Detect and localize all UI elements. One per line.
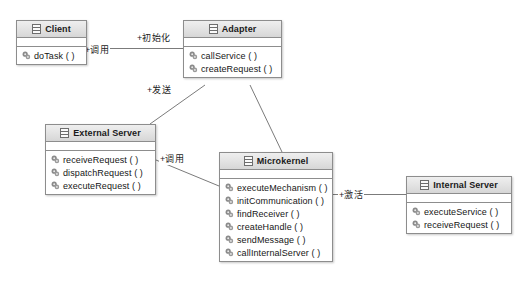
operation-label: executeService ( )	[424, 207, 498, 217]
class-icon	[420, 180, 429, 190]
operation-icon	[225, 209, 234, 218]
operation-label: receiveRequest ( )	[424, 220, 499, 230]
operation-row[interactable]: initCommunication ( )	[220, 194, 332, 207]
class-operations-client: doTask ( )	[17, 47, 86, 64]
operation-icon	[225, 248, 234, 257]
uml-class-diagram: +初始化 +调用 +发送 +调用 +激活 Client doTask ( )	[0, 0, 526, 283]
operation-row[interactable]: executeRequest ( )	[46, 179, 155, 192]
operation-row[interactable]: executeMechanism ( )	[220, 181, 332, 194]
operation-row[interactable]: findReceiver ( )	[220, 207, 332, 220]
operation-row[interactable]: receiveRequest ( )	[46, 153, 155, 166]
operation-label: createRequest ( )	[201, 64, 272, 74]
edge-label-init: +初始化	[136, 31, 171, 44]
class-operations-internal-server: executeService ( ) receiveRequest ( )	[407, 203, 511, 233]
edge-label-call-external-microkernel: +调用	[159, 152, 185, 165]
class-attributes-client	[17, 38, 86, 47]
class-name-adapter: Adapter	[222, 24, 257, 34]
class-icon	[32, 24, 41, 34]
operation-icon	[189, 51, 198, 60]
class-attributes-microkernel	[220, 170, 332, 179]
class-box-internal-server[interactable]: Internal Server executeService ( )	[406, 176, 512, 234]
operation-label: sendMessage ( )	[237, 235, 306, 245]
class-name-internal-server: Internal Server	[433, 180, 498, 190]
operation-icon	[225, 196, 234, 205]
operation-icon	[412, 220, 421, 229]
edge-label-call-client-adapter: +调用	[84, 43, 110, 56]
class-header-external-server: External Server	[46, 125, 155, 142]
operation-icon	[225, 183, 234, 192]
operation-label: executeMechanism ( )	[237, 183, 328, 193]
class-operations-adapter: callService ( ) createRequest ( )	[184, 47, 281, 77]
operation-icon	[189, 64, 198, 73]
class-header-microkernel: Microkernel	[220, 153, 332, 170]
operation-row[interactable]: createRequest ( )	[184, 62, 281, 75]
operation-row[interactable]: callInternalServer ( )	[220, 246, 332, 259]
operation-label: dispatchRequest ( )	[63, 168, 143, 178]
operation-row[interactable]: doTask ( )	[17, 49, 86, 62]
operation-icon	[225, 222, 234, 231]
operation-label: callService ( )	[201, 51, 257, 61]
operation-row[interactable]: executeService ( )	[407, 205, 511, 218]
class-icon	[60, 128, 69, 138]
operation-label: callInternalServer ( )	[237, 248, 320, 258]
operation-icon	[412, 207, 421, 216]
class-name-client: Client	[45, 24, 71, 34]
class-box-microkernel[interactable]: Microkernel executeMechanism ( )	[219, 152, 333, 262]
operation-row[interactable]: sendMessage ( )	[220, 233, 332, 246]
operation-icon	[51, 155, 60, 164]
class-attributes-adapter	[184, 38, 281, 47]
operation-icon	[51, 181, 60, 190]
class-icon	[209, 24, 218, 34]
operation-icon	[225, 235, 234, 244]
class-box-client[interactable]: Client doTask ( )	[16, 20, 87, 65]
class-operations-external-server: receiveRequest ( ) dispatchRequest ( )	[46, 151, 155, 194]
operation-row[interactable]: dispatchRequest ( )	[46, 166, 155, 179]
class-operations-microkernel: executeMechanism ( ) initCommunication (…	[220, 179, 332, 261]
operation-label: initCommunication ( )	[237, 196, 324, 206]
operation-label: executeRequest ( )	[63, 181, 141, 191]
class-icon	[244, 156, 253, 166]
operation-label: createHandle ( )	[237, 222, 303, 232]
class-name-external-server: External Server	[73, 128, 141, 138]
operation-row[interactable]: createHandle ( )	[220, 220, 332, 233]
edge-label-send: +发送	[146, 83, 172, 96]
class-header-client: Client	[17, 21, 86, 38]
operation-icon	[51, 168, 60, 177]
class-attributes-external-server	[46, 142, 155, 151]
operation-row[interactable]: callService ( )	[184, 49, 281, 62]
operation-label: doTask ( )	[34, 51, 75, 61]
class-name-microkernel: Microkernel	[257, 156, 309, 166]
operation-icon	[22, 51, 31, 60]
operation-label: findReceiver ( )	[237, 209, 300, 219]
edge-label-activate: +激活	[338, 188, 364, 201]
class-box-adapter[interactable]: Adapter callService ( )	[183, 20, 282, 78]
class-attributes-internal-server	[407, 194, 511, 203]
class-header-internal-server: Internal Server	[407, 177, 511, 194]
class-box-external-server[interactable]: External Server receiveRequest ( )	[45, 124, 156, 195]
operation-row[interactable]: receiveRequest ( )	[407, 218, 511, 231]
edge-adapter-microkernel	[250, 85, 282, 152]
class-header-adapter: Adapter	[184, 21, 281, 38]
operation-label: receiveRequest ( )	[63, 155, 138, 165]
